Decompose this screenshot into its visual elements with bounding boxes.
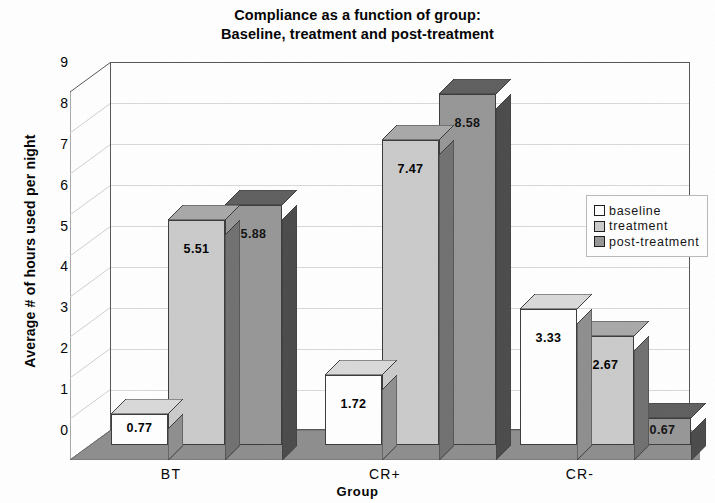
x-tick-label: BT	[131, 466, 211, 482]
y-tick-label: 4	[46, 258, 68, 274]
bar-front-face	[520, 309, 577, 445]
legend-item-treatment: treatment	[594, 219, 699, 233]
x-tick-label: CR-	[540, 466, 620, 482]
legend-swatch-icon	[594, 205, 605, 216]
legend-label: treatment	[609, 219, 668, 233]
y-tick-label: 1	[46, 381, 68, 397]
bar-top-face	[325, 360, 397, 375]
bar-baseline-CR-: 3.33	[520, 309, 577, 445]
bar-top-face	[168, 205, 240, 220]
y-tick-label: 8	[46, 95, 68, 111]
x-axis-title: Group	[0, 484, 715, 499]
legend-label: baseline	[609, 204, 661, 218]
bar-top-face	[382, 125, 454, 140]
bar-side-face	[382, 375, 397, 460]
chart-container: Compliance as a function of group: Basel…	[0, 0, 715, 503]
y-tick-label: 5	[46, 218, 68, 234]
bar-top-face	[520, 294, 592, 309]
y-axis-ticks: 9876543210	[44, 0, 68, 503]
bar-side-face	[577, 309, 592, 460]
bar-side-face	[691, 418, 706, 460]
bar-top-face	[111, 399, 183, 414]
bar-side-face	[634, 336, 649, 460]
bar-value-label: 0.77	[111, 421, 168, 435]
bar-value-label: 1.72	[325, 397, 382, 411]
bar-side-face	[496, 94, 511, 460]
legend: baselinetreatmentpost-treatment	[586, 195, 708, 257]
y-tick-label: 3	[46, 299, 68, 315]
y-tick-label: 7	[46, 136, 68, 152]
x-tick-label: CR+	[345, 466, 425, 482]
bar-value-label: 3.33	[520, 331, 577, 345]
plot-area: 5.885.510.778.587.471.720.672.673.33 bas…	[70, 62, 700, 460]
bar-side-face	[225, 220, 240, 460]
bar-value-label: 5.51	[168, 242, 225, 256]
bar-top-face	[439, 79, 511, 94]
bar-side-face	[439, 140, 454, 460]
y-tick-label: 9	[46, 54, 68, 70]
chart-title-line-2: Baseline, treatment and post-treatment	[0, 25, 715, 44]
chart-title-line-1: Compliance as a function of group:	[0, 6, 715, 25]
legend-swatch-icon	[594, 221, 605, 232]
bars-layer: 5.885.510.778.587.471.720.672.673.33	[70, 62, 700, 460]
y-tick-label: 6	[46, 177, 68, 193]
chart-title: Compliance as a function of group: Basel…	[0, 6, 715, 44]
bar-baseline-CR+: 1.72	[325, 375, 382, 445]
bar-side-face	[168, 414, 183, 460]
legend-item-post-treatment: post-treatment	[594, 235, 699, 249]
bar-side-face	[282, 205, 297, 460]
bar-top-face	[225, 190, 297, 205]
legend-swatch-icon	[594, 236, 605, 247]
y-axis-title: Average # of hours used per night	[22, 71, 38, 431]
y-tick-label: 2	[46, 340, 68, 356]
bar-value-label: 7.47	[382, 162, 439, 176]
legend-item-baseline: baseline	[594, 204, 699, 218]
y-tick-label: 0	[46, 422, 68, 438]
bar-baseline-BT: 0.77	[111, 414, 168, 445]
legend-label: post-treatment	[609, 235, 699, 249]
